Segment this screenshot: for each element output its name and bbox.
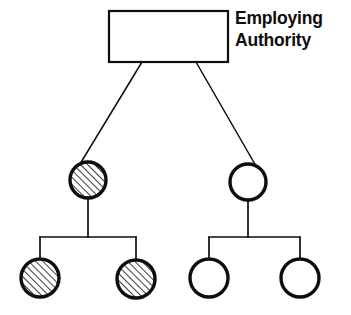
employing-authority-box[interactable] — [109, 11, 228, 62]
empty-circle-level3-fourth[interactable] — [281, 259, 319, 297]
empty-circle-level3-third[interactable] — [190, 259, 228, 297]
hatched-circle-level2-left[interactable] — [70, 162, 106, 198]
org-chart-svg: Employing Authority — [0, 0, 351, 315]
employing-authority-label-line2: Authority — [235, 30, 311, 50]
org-chart-diagram: Employing Authority — [0, 0, 351, 315]
employing-authority-label-line1: Employing — [235, 8, 323, 28]
empty-circle-level2-right[interactable] — [230, 164, 266, 200]
hatched-circle-level3-first[interactable] — [21, 259, 59, 297]
hatched-circle-level3-second[interactable] — [117, 260, 155, 298]
